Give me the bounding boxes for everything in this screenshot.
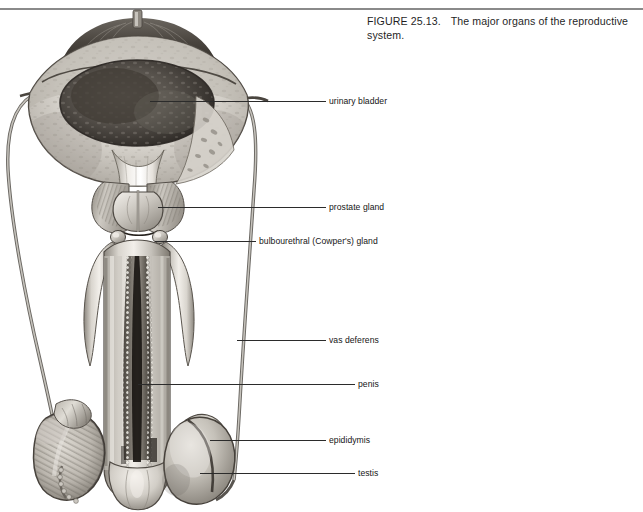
male-reproductive-system-illustration [0, 0, 643, 512]
leader-line-testis [200, 473, 355, 474]
leader-line-epididymis [210, 440, 326, 441]
leader-line-prostate-gland [158, 207, 326, 208]
leader-line-urinary-bladder [150, 101, 326, 102]
label-vas-deferens: vas deferens [329, 335, 379, 345]
label-urinary-bladder: urinary bladder [329, 96, 387, 106]
figure-page: FIGURE 25.13.The major organs of the rep… [0, 0, 643, 512]
leader-line-vas-deferens [237, 340, 326, 341]
top-divider-rule [0, 8, 643, 10]
label-testis: testis [358, 468, 378, 478]
leader-line-penis [138, 384, 355, 385]
label-epididymis: epididymis [329, 435, 370, 445]
figure-caption: FIGURE 25.13.The major organs of the rep… [367, 14, 643, 42]
label-penis: penis [358, 379, 379, 389]
figure-number: FIGURE 25.13. [367, 15, 441, 27]
leader-line-bulbourethral-gland [155, 241, 256, 242]
label-prostate-gland: prostate gland [329, 202, 384, 212]
label-bulbourethral-gland: bulbourethral (Cowper's) gland [259, 236, 378, 246]
